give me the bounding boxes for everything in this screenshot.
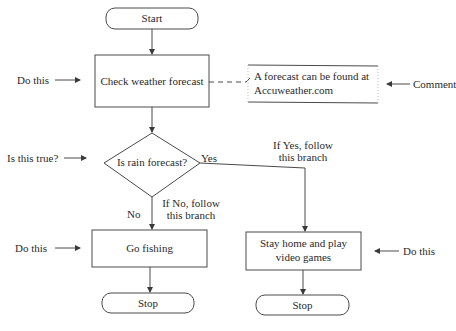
check-weather-label: Check weather forecast	[95, 75, 209, 88]
callout-do-this-3: Do this	[403, 245, 435, 258]
no-branch-label: No	[127, 208, 140, 221]
callout-comment: Comment	[413, 78, 456, 91]
stop-right-label: Stop	[256, 299, 349, 312]
comment-line-1: A forecast can be found at	[254, 70, 369, 83]
callout-is-this-true: Is this true?	[7, 152, 58, 165]
callout-do-this-1: Do this	[17, 74, 49, 87]
stop-left-label: Stop	[102, 297, 194, 310]
decision-label: Is rain forecast?	[104, 156, 200, 169]
stay-home-label-line-2: video games	[246, 251, 361, 264]
start-label: Start	[106, 12, 198, 25]
yes-note-line-2: this branch	[268, 151, 338, 164]
yes-branch-label: Yes	[201, 152, 217, 165]
go-fishing-label: Go fishing	[92, 242, 207, 255]
callout-do-this-2: Do this	[15, 242, 47, 255]
comment-line-2: Accuweather.com	[254, 84, 333, 97]
no-note-line-2: this branch	[160, 209, 222, 222]
comment-top-line	[248, 65, 378, 66]
comment-bottom-line	[248, 102, 378, 103]
stay-home-label-line-1: Stay home and play	[246, 237, 361, 250]
flowchart-canvas	[0, 0, 456, 331]
